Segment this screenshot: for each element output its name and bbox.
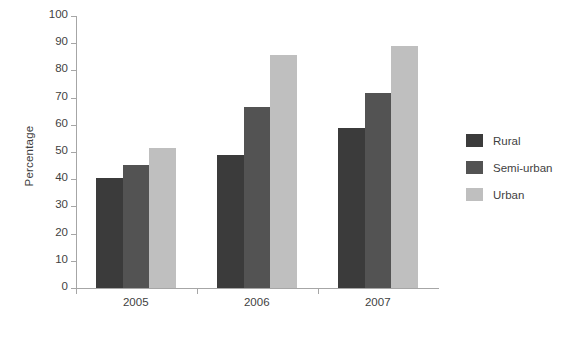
legend-label: Urban	[493, 189, 524, 201]
y-axis-tick-mark	[71, 16, 77, 17]
x-axis-category-label-2005: 2005	[123, 296, 149, 308]
y-axis-tick-mark	[71, 70, 77, 71]
bar-chart: Percentage 0102030405060708090100 200520…	[0, 0, 582, 339]
y-axis-tick-label: 0	[62, 280, 68, 292]
chart-legend: RuralSemi-urbanUrban	[466, 127, 576, 208]
bar-rural-2005	[96, 178, 123, 288]
y-axis-tick-mark	[71, 206, 77, 207]
y-axis-tick: 10	[76, 261, 77, 262]
y-axis-tick-label: 10	[55, 253, 68, 265]
y-axis-tick-label: 30	[55, 198, 68, 210]
y-axis-tick: 80	[76, 70, 77, 71]
y-axis-tick-label: 20	[55, 226, 68, 238]
bar-semi-urban-2005	[123, 165, 150, 288]
y-axis-tick-mark	[71, 43, 77, 44]
bar-urban-2007	[391, 46, 418, 288]
legend-item-rural[interactable]: Rural	[466, 127, 576, 154]
y-axis-tick-label: 50	[55, 144, 68, 156]
y-axis-tick: 40	[76, 179, 77, 180]
y-axis-tick: 30	[76, 206, 77, 207]
y-axis-title: Percentage	[23, 101, 35, 211]
y-axis-tick-label: 80	[55, 62, 68, 74]
legend-item-urban[interactable]: Urban	[466, 181, 576, 208]
y-axis-tick: 100	[76, 16, 77, 17]
bar-urban-2005	[149, 148, 176, 288]
y-axis-tick-label: 100	[49, 8, 68, 20]
y-axis-tick-mark	[71, 234, 77, 235]
x-axis-category-label-2006: 2006	[244, 296, 270, 308]
x-axis-origin-tick-mark	[76, 288, 77, 294]
legend-label: Rural	[493, 135, 520, 147]
y-axis-tick-mark	[71, 125, 77, 126]
legend-item-semi-urban[interactable]: Semi-urban	[466, 154, 576, 181]
x-axis-category-label-2007: 2007	[365, 296, 391, 308]
x-axis-tick-mark	[197, 288, 198, 294]
plot-area: 0102030405060708090100	[76, 17, 439, 289]
x-axis-tick-mark	[318, 288, 319, 294]
y-axis-line	[76, 17, 77, 289]
y-axis-tick-mark	[71, 261, 77, 262]
y-axis-tick: 70	[76, 98, 77, 99]
bar-semi-urban-2006	[244, 107, 271, 288]
x-axis-line	[76, 288, 439, 289]
legend-label: Semi-urban	[493, 162, 552, 174]
bar-urban-2006	[270, 55, 297, 288]
y-axis-tick-mark	[71, 98, 77, 99]
legend-swatch-icon	[466, 161, 483, 174]
y-axis-tick-label: 40	[55, 171, 68, 183]
y-axis-tick: 20	[76, 234, 77, 235]
y-axis-tick-label: 60	[55, 117, 68, 129]
legend-swatch-icon	[466, 188, 483, 201]
bar-rural-2007	[338, 128, 365, 288]
y-axis-tick: 60	[76, 125, 77, 126]
y-axis-tick: 50	[76, 152, 77, 153]
bar-semi-urban-2007	[365, 93, 392, 288]
y-axis-tick-label: 70	[55, 90, 68, 102]
y-axis-tick-mark	[71, 179, 77, 180]
y-axis-tick-label: 90	[55, 35, 68, 47]
legend-swatch-icon	[466, 134, 483, 147]
y-axis-tick: 90	[76, 43, 77, 44]
bar-rural-2006	[217, 155, 244, 288]
y-axis-tick-mark	[71, 152, 77, 153]
